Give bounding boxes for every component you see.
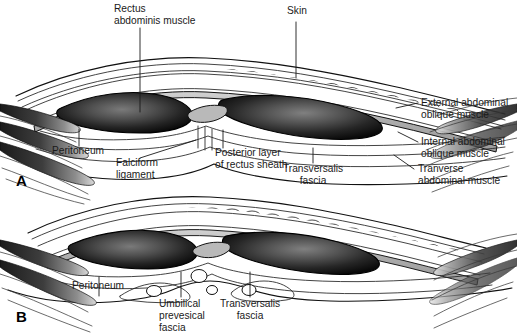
label-falciform-line2: ligament: [116, 169, 155, 180]
label-transversalis-b-line1: Transversalis: [220, 298, 280, 309]
leader-external-oblique: [396, 103, 418, 108]
vessel-profile-center: [191, 270, 207, 283]
label-posterior-layer-line2: of rectus sheath: [215, 159, 288, 170]
label-internal-oblique-line1: Internal abdominal: [421, 136, 505, 147]
anatomy-figure: Rectus abdominis muscle Skin External ab…: [0, 0, 517, 334]
vessel-profile-small: [207, 286, 218, 295]
label-transverse-line2: abdominal muscle: [418, 175, 500, 186]
vessel-profile-right: [242, 285, 256, 296]
label-rectus-line2: abdominis muscle: [114, 15, 196, 26]
linea-alba-b: [193, 242, 230, 257]
label-transversalis-a-line1: Transversalis: [283, 163, 343, 174]
falciform-ligament-strands: [198, 126, 212, 150]
label-umbilical-line3: fascia: [159, 322, 186, 333]
label-peritoneum-a: Peritoneum: [52, 145, 104, 156]
label-external-oblique-line2: oblique muscle: [421, 109, 489, 120]
label-transversalis-a-line2: fascia: [300, 175, 327, 186]
leader-transverse: [394, 155, 414, 169]
label-transversalis-b-line2: fascia: [237, 310, 264, 321]
panel-a-letter: A: [16, 172, 27, 189]
linea-alba: [188, 105, 227, 122]
label-peritoneum-b: Peritoneum: [72, 280, 124, 291]
panel-b-letter: B: [16, 308, 27, 325]
label-transverse-line1: Tranverse: [418, 163, 464, 174]
label-umbilical-line2: prevesical: [159, 310, 205, 321]
anatomy-illustration: Rectus abdominis muscle Skin External ab…: [0, 0, 517, 334]
right-oblique-muscles-b: [430, 234, 517, 328]
leader-falciform: [140, 140, 196, 158]
label-skin: Skin: [287, 5, 307, 16]
leader-internal-oblique: [398, 132, 418, 142]
label-posterior-layer-line1: Posterior layer: [215, 147, 281, 158]
label-external-oblique-line1: External abdominal: [421, 97, 508, 108]
vessel-profile-left: [147, 286, 162, 297]
label-rectus-line1: Rectus: [114, 3, 146, 14]
label-falciform-line1: Falciform: [116, 157, 158, 168]
label-internal-oblique-line2: oblique muscle: [421, 148, 489, 159]
label-umbilical-line1: Umbilical: [159, 298, 200, 309]
